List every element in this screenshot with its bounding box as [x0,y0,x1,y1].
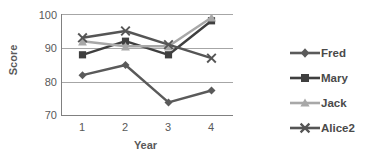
x-axis-tick-label: 2 [105,122,145,132]
data-series-layer [78,14,216,106]
y-axis-tick-label: 100 [24,10,57,20]
legend-label: Jack [320,97,347,109]
x-axis-title: Year [58,139,233,151]
legend-item-alice2[interactable]: Alice2 [290,115,386,140]
legend-item-mary[interactable]: Mary [290,65,386,90]
cross-marker-icon [290,121,320,135]
y-axis-tick-label: 70 [24,110,57,120]
square-marker-icon [290,71,320,85]
plot-area [61,14,233,116]
x-axis-tick-label: 4 [191,122,231,132]
axis-ticks [61,14,233,116]
y-axis-tick-label: 90 [24,43,57,53]
legend-item-fred[interactable]: Fred [290,40,386,65]
plot-svg [61,14,233,116]
legend-label: Mary [320,72,348,84]
y-axis-tick-label: 80 [24,77,57,87]
triangle-marker-icon [290,96,320,110]
diamond-marker-icon [290,46,320,60]
axis-lines [61,14,233,116]
x-axis-tick-label: 3 [148,122,188,132]
series-fred [79,61,216,106]
chart-legend: Fred Mary Jack [290,40,386,140]
line-chart: Score 100 90 80 70 1 2 3 4 Year Fred [0,0,387,162]
y-axis-title: Score [7,30,19,90]
series-alice2 [78,27,216,63]
legend-label: Alice2 [320,122,355,134]
legend-item-jack[interactable]: Jack [290,90,386,115]
x-axis-tick-label: 1 [62,122,102,132]
legend-label: Fred [320,47,346,59]
